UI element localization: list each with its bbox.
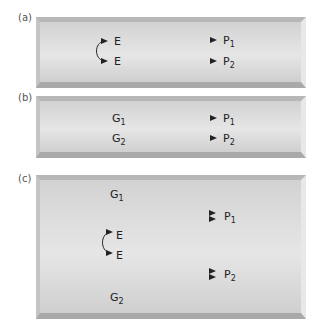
product-p2: P2 <box>224 269 236 283</box>
gene-g2: G2 <box>112 133 126 147</box>
arrowhead-icon <box>210 37 217 43</box>
arrowhead-icon <box>101 38 108 44</box>
gene-g1: G1 <box>112 113 126 127</box>
panel-b <box>36 96 306 158</box>
product-p2: P2 <box>223 133 235 147</box>
panel-c <box>36 175 306 319</box>
arrowhead-icon <box>210 58 217 64</box>
arrowhead-icon <box>209 274 216 280</box>
panel-a-label: (a) <box>18 12 32 23</box>
arrowhead-icon <box>106 250 113 256</box>
panel-a <box>36 17 306 88</box>
panel-c-label: (c) <box>18 173 31 184</box>
product-p1: P1 <box>223 35 235 49</box>
arrowhead-icon <box>210 115 217 121</box>
product-p2: P2 <box>223 56 235 70</box>
enzyme-e-1: E <box>114 36 121 47</box>
arrowhead-icon <box>210 135 217 141</box>
panel-b-label: (b) <box>18 92 32 103</box>
enzyme-e-1: E <box>116 230 123 241</box>
arrowhead-icon <box>101 58 108 64</box>
gene-g2: G2 <box>110 292 124 306</box>
gene-g1: G1 <box>110 189 124 203</box>
product-p1: P1 <box>223 113 235 127</box>
enzyme-e-2: E <box>114 56 121 67</box>
arrowhead-icon <box>106 229 113 235</box>
product-p1: P1 <box>224 211 236 225</box>
enzyme-e-2: E <box>116 250 123 261</box>
arrowhead-icon <box>209 216 216 222</box>
